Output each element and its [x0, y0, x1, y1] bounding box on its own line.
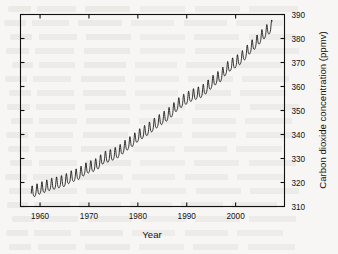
x-axis-ticks — [40, 15, 236, 207]
plot-frame — [21, 15, 285, 207]
x-tick-label: 1960 — [31, 212, 50, 221]
y-tick-label: 350 — [292, 107, 306, 116]
x-tick-label: 2000 — [227, 212, 246, 221]
y-tick-label: 360 — [292, 83, 306, 92]
y-tick-label: 320 — [292, 179, 306, 188]
x-tick-label: 1990 — [178, 212, 197, 221]
chart-canvas: 310320330340350360370380390 196019701980… — [0, 0, 338, 254]
y-tick-label: 310 — [292, 203, 306, 212]
y-tick-label: 390 — [292, 11, 306, 20]
y-tick-label: 370 — [292, 59, 306, 68]
x-tick-label: 1970 — [80, 212, 99, 221]
y-tick-label: 380 — [292, 35, 306, 44]
x-tick-label: 1980 — [129, 212, 148, 221]
y-axis-ticks-left — [21, 15, 25, 207]
co2-data-line — [31, 20, 272, 197]
co2-concentration-chart: 310320330340350360370380390 196019701980… — [0, 0, 338, 254]
y-tick-label: 340 — [292, 131, 306, 140]
x-axis-title: Year — [142, 229, 162, 240]
x-axis-tick-labels: 19601970198019902000 — [31, 212, 245, 221]
y-axis-tick-labels: 310320330340350360370380390 — [292, 11, 306, 212]
y-axis-ticks-right — [281, 15, 285, 207]
y-tick-label: 330 — [292, 155, 306, 164]
y-axis-title: Carbon dioxide concentration (ppmv) — [317, 31, 328, 188]
